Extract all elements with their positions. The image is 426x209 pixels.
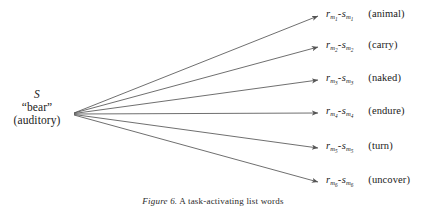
response-word-2: (carry) bbox=[368, 39, 397, 50]
response-row-6: rm6-sm6 (uncover) bbox=[326, 174, 410, 190]
arrow-to-response-6 bbox=[74, 115, 318, 182]
response-word-5: (turn) bbox=[368, 140, 393, 151]
response-code-3: rm3-sm3 bbox=[326, 72, 353, 83]
response-word-6: (uncover) bbox=[368, 174, 410, 185]
response-row-5: rm5-sm5 (turn) bbox=[326, 140, 393, 156]
arrow-to-response-5 bbox=[74, 115, 318, 149]
arrow-to-response-1 bbox=[74, 16, 318, 113]
response-row-3: rm3-sm3 (naked) bbox=[326, 72, 401, 88]
response-code-4: rm4-sm4 bbox=[326, 105, 353, 116]
figure-caption: Figure 6. A task-activating list words bbox=[0, 196, 426, 206]
response-word-1: (animal) bbox=[368, 8, 404, 19]
stimulus-word: “bear” bbox=[4, 101, 70, 114]
response-row-2: rm2-sm2 (carry) bbox=[326, 39, 398, 55]
stimulus-modality: (auditory) bbox=[4, 114, 70, 127]
response-code-1: rm1-sm1 bbox=[326, 8, 353, 19]
arrow-to-response-4 bbox=[74, 113, 318, 114]
response-row-4: rm4-sm4 (endure) bbox=[326, 105, 405, 121]
arrow-to-response-2 bbox=[74, 47, 318, 113]
response-code-2: rm2-sm2 bbox=[326, 39, 353, 50]
divergent-mediation-diagram: S “bear” (auditory) rm1-sm1 (animal) rm2… bbox=[0, 0, 426, 209]
figure-caption-label: Figure 6. bbox=[142, 196, 177, 206]
response-code-5: rm5-sm5 bbox=[326, 140, 353, 151]
arrow-to-response-3 bbox=[74, 80, 318, 114]
figure-caption-text: A task-activating list words bbox=[179, 196, 283, 206]
response-row-1: rm1-sm1 (animal) bbox=[326, 8, 405, 24]
response-word-3: (naked) bbox=[368, 72, 401, 83]
response-code-6: rm6-sm6 bbox=[326, 174, 353, 185]
stimulus-symbol: S bbox=[4, 88, 70, 101]
stimulus-label: S “bear” (auditory) bbox=[4, 88, 70, 127]
response-word-4: (endure) bbox=[368, 105, 404, 116]
